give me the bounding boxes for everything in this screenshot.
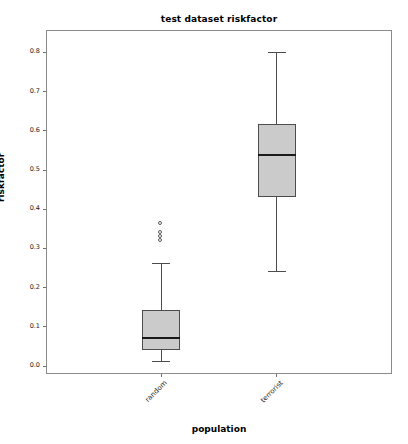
figure-canvas: test dataset riskfactor riskfactor popul… (0, 0, 408, 444)
iqr-box (258, 124, 296, 197)
x-tick-label-random: random (144, 379, 169, 404)
y-tick-mark (43, 366, 46, 367)
x-tick-mark (276, 374, 277, 377)
whisker-lower (161, 350, 162, 361)
median-line (258, 154, 296, 156)
x-tick-label-terrorist: terrorist (259, 379, 284, 404)
y-tick-label: 0.0 (30, 361, 40, 370)
x-tick-mark (161, 374, 162, 377)
whisker-upper (276, 52, 277, 123)
whisker-cap-lower (268, 271, 286, 272)
whisker-cap-lower (152, 361, 170, 362)
boxplot-terrorist (0, 0, 408, 344)
whisker-lower (276, 197, 277, 271)
whisker-cap-upper (268, 52, 286, 53)
x-axis-label: population (46, 424, 392, 434)
